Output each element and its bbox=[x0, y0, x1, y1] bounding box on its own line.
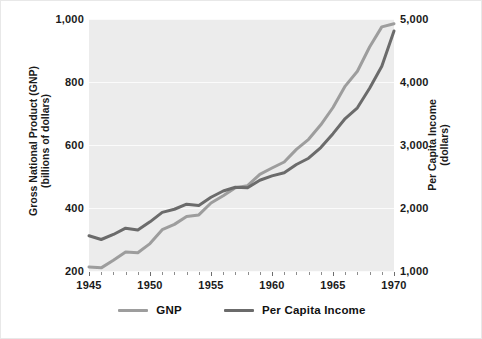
y-axis-right-tick-label: 1,000 bbox=[400, 265, 429, 277]
y-axis-left-tick-label: 600 bbox=[65, 139, 84, 151]
axis-title-line: (billions of dollars) bbox=[39, 41, 51, 241]
x-axis-tick-label: 1950 bbox=[137, 279, 162, 291]
y-axis-left-title: Gross National Product (GNP)(billions of… bbox=[27, 41, 51, 241]
x-axis-minor-tick-mark bbox=[187, 272, 188, 275]
chart-legend: GNPPer Capita Income bbox=[1, 304, 482, 316]
x-axis-minor-tick-mark bbox=[199, 272, 200, 275]
y-axis-left-tick-label: 1,000 bbox=[55, 13, 84, 25]
legend-label: GNP bbox=[156, 304, 182, 316]
x-axis-minor-tick-mark bbox=[162, 272, 163, 275]
x-axis-minor-tick-mark bbox=[382, 272, 383, 275]
line-series-per-capita-income bbox=[89, 31, 394, 240]
y-axis-right-tick-label: 4,000 bbox=[400, 76, 429, 88]
x-axis-tick-mark bbox=[150, 272, 151, 276]
x-axis-minor-tick-mark bbox=[357, 272, 358, 275]
y-axis-right-tick-label: 2,000 bbox=[400, 202, 429, 214]
x-axis-tick-mark bbox=[89, 272, 90, 276]
x-axis-tick-label: 1965 bbox=[320, 279, 345, 291]
x-axis-tick-label: 1955 bbox=[198, 279, 223, 291]
x-axis-tick-label: 1970 bbox=[381, 279, 406, 291]
x-axis-tick-mark bbox=[272, 272, 273, 276]
x-axis-minor-tick-mark bbox=[174, 272, 175, 275]
y-axis-left-tick-label: 200 bbox=[65, 265, 84, 277]
x-axis-minor-tick-mark bbox=[248, 272, 249, 275]
axis-title-line: (dollars) bbox=[438, 75, 450, 215]
axis-title-line: Per Capita Income bbox=[426, 75, 438, 215]
x-axis-minor-tick-mark bbox=[223, 272, 224, 275]
legend-item: GNP bbox=[118, 304, 182, 316]
axis-title-line: Gross National Product (GNP) bbox=[27, 41, 39, 241]
chart-lines bbox=[89, 19, 394, 271]
y-axis-right-tick-label: 3,000 bbox=[400, 139, 429, 151]
line-series-gnp bbox=[89, 24, 394, 268]
x-axis-minor-tick-mark bbox=[126, 272, 127, 275]
x-axis-tick-label: 1945 bbox=[76, 279, 101, 291]
y-axis-left-tick-label: 800 bbox=[65, 76, 84, 88]
x-axis-minor-tick-mark bbox=[113, 272, 114, 275]
x-axis-minor-tick-mark bbox=[296, 272, 297, 275]
gridline bbox=[89, 271, 394, 272]
chart-figure: 2004006008001,000 1,0002,0003,0004,0005,… bbox=[0, 0, 482, 339]
legend-swatch bbox=[224, 309, 254, 312]
x-axis-tick-label: 1960 bbox=[259, 279, 284, 291]
x-axis-tick-mark bbox=[333, 272, 334, 276]
x-axis-tick-mark bbox=[394, 272, 395, 276]
legend-swatch bbox=[118, 309, 148, 312]
x-axis-minor-tick-mark bbox=[345, 272, 346, 275]
x-axis-minor-tick-mark bbox=[321, 272, 322, 275]
x-axis-minor-tick-mark bbox=[260, 272, 261, 275]
legend-label: Per Capita Income bbox=[262, 304, 366, 316]
x-axis-minor-tick-mark bbox=[284, 272, 285, 275]
x-axis-minor-tick-mark bbox=[309, 272, 310, 275]
y-axis-right-title: Per Capita Income(dollars) bbox=[426, 75, 450, 215]
y-axis-left-tick-label: 400 bbox=[65, 202, 84, 214]
x-axis-minor-tick-mark bbox=[101, 272, 102, 275]
plot-area bbox=[89, 19, 394, 271]
x-axis-minor-tick-mark bbox=[235, 272, 236, 275]
x-axis-minor-tick-mark bbox=[370, 272, 371, 275]
x-axis-minor-tick-mark bbox=[138, 272, 139, 275]
legend-item: Per Capita Income bbox=[224, 304, 366, 316]
y-axis-right-tick-label: 5,000 bbox=[400, 13, 429, 25]
x-axis-tick-mark bbox=[211, 272, 212, 276]
